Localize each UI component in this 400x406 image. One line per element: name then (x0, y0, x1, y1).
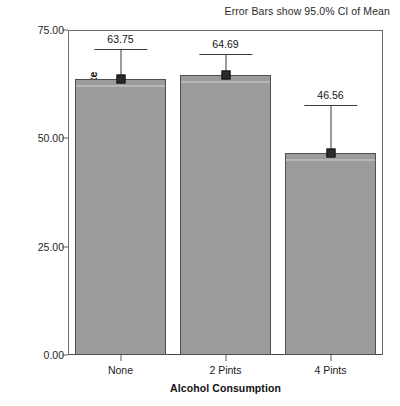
error-bar-annotation: Error Bars show 95.0% CI of Mean (225, 5, 390, 17)
x-tick-label: 2 Pints (171, 364, 281, 376)
y-tick-mark (62, 138, 68, 139)
bar (75, 79, 167, 355)
y-tick-label: 50.00 (4, 132, 64, 144)
y-tick-label: 75.00 (4, 24, 64, 36)
y-tick-mark (62, 30, 68, 31)
error-bar-line (330, 105, 331, 153)
y-tick-label: 0.00 (4, 349, 64, 361)
error-bar-cap (304, 105, 357, 106)
x-tick-mark (330, 355, 331, 361)
x-tick-mark (120, 355, 121, 361)
x-tick-mark (225, 355, 226, 361)
x-axis-title: Alcohol Consumption (68, 382, 383, 394)
mean-marker (221, 70, 230, 79)
bar (285, 153, 377, 355)
error-bar-cap (94, 49, 147, 50)
error-bar-cap (199, 54, 252, 55)
y-tick-mark (62, 246, 68, 247)
y-tick-label: 25.00 (4, 241, 64, 253)
bar-value-label: 63.75 (76, 33, 166, 45)
bar-value-label: 46.56 (286, 89, 376, 101)
y-tick-mark (62, 355, 68, 356)
mean-marker (116, 74, 125, 83)
x-tick-label: None (66, 364, 176, 376)
x-tick-label: 4 Pints (276, 364, 386, 376)
mean-marker (326, 149, 335, 158)
bar-value-label: 64.69 (181, 38, 271, 50)
bar-chart: Error Bars show 95.0% CI of Mean Attract… (0, 0, 400, 406)
bar (180, 75, 272, 355)
